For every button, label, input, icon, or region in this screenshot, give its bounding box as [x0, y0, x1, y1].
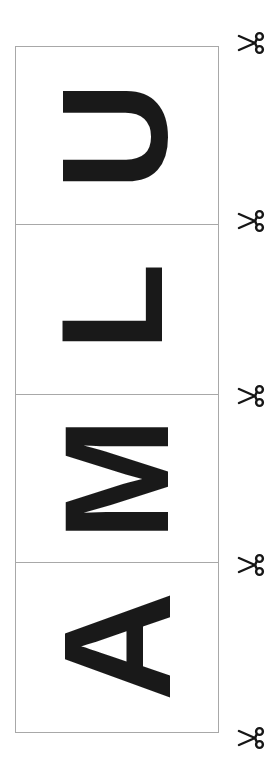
letter-panel-2[interactable]: L: [16, 224, 218, 394]
cut-out-letter-sheet: U L M A: [15, 46, 219, 733]
letter-panel-4[interactable]: A: [16, 562, 218, 732]
letter-glyph-a: A: [41, 591, 193, 701]
scissors-icon: [235, 723, 269, 753]
letter-glyph-u: U: [40, 81, 190, 189]
letter-panel-3[interactable]: M: [16, 394, 218, 562]
letter-glyph-l: L: [41, 263, 185, 351]
scissors-icon: [235, 28, 269, 58]
scissors-icon: [235, 550, 269, 580]
scissors-icon: [235, 381, 269, 411]
letter-glyph-m: M: [43, 417, 191, 540]
scissors-icon: [235, 206, 269, 236]
letter-panel-1[interactable]: U: [16, 47, 218, 224]
